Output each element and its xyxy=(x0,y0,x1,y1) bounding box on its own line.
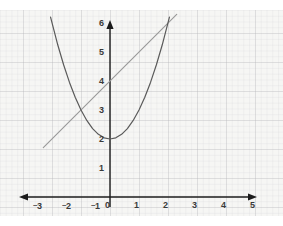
y-tick-label-5: 5 xyxy=(99,48,104,57)
x-tick-label-2: 2 xyxy=(163,201,168,210)
x-tick-label-1: 1 xyxy=(134,201,139,210)
minus-sign-icon: – xyxy=(91,200,95,209)
y-tick-label-4: 4 xyxy=(99,77,104,86)
minus-sign-icon: – xyxy=(62,200,66,209)
coordinate-plot xyxy=(0,0,283,226)
graph-figure: –3–2–1012345 123456 xyxy=(0,0,283,226)
x-axis-left-arrowhead xyxy=(19,193,28,200)
x-tick-label-4: 4 xyxy=(221,201,226,210)
y-tick-label-3: 3 xyxy=(99,106,104,115)
y-tick-label-2: 2 xyxy=(99,135,104,144)
axes-group xyxy=(19,20,257,207)
y-axis-top-arrowhead xyxy=(106,20,113,29)
x-tick-label-neg3: –3 xyxy=(33,201,42,211)
x-tick-label-neg1: –1 xyxy=(91,201,100,211)
y-tick-label-1: 1 xyxy=(99,164,104,173)
x-tick-label-neg2: –2 xyxy=(62,201,71,211)
y-tick-label-6: 6 xyxy=(99,19,104,28)
x-tick-label-3: 3 xyxy=(192,201,197,210)
x-tick-label-0: 0 xyxy=(105,201,110,210)
x-tick-label-5: 5 xyxy=(250,201,255,210)
minus-sign-icon: – xyxy=(33,200,37,209)
